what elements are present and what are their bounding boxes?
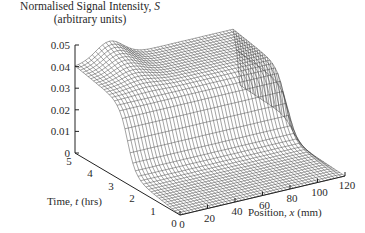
z-tick-label: 0.04: [51, 61, 71, 73]
t-tick-label: 5: [66, 155, 72, 167]
surface-plot: 00.010.020.030.040.050204060801001200123…: [0, 0, 365, 233]
y-axis-label: Time, t (hrs): [47, 195, 102, 208]
t-tick-label: 3: [108, 180, 114, 192]
t-tick-label: 0: [171, 217, 177, 229]
x-tick-label: 100: [311, 186, 328, 198]
z-tick-label: 0.03: [51, 82, 71, 94]
x-tick-label: 80: [287, 192, 299, 204]
x-tick-label: 0: [179, 218, 185, 230]
t-tick-label: 1: [150, 205, 156, 217]
z-tick-label: 0.01: [51, 125, 70, 137]
z-tick-label: 0.05: [51, 39, 71, 51]
x-tick-label: 120: [339, 179, 356, 191]
t-tick-label: 2: [129, 192, 135, 204]
surface-wireframe: [75, 29, 345, 215]
t-tick-label: 4: [87, 167, 93, 179]
x-tick-label: 20: [204, 212, 216, 224]
surface-mesh: [75, 29, 345, 215]
z-tick-label: 0.02: [51, 104, 70, 116]
x-tick-label: 40: [232, 205, 244, 217]
x-axis-label: Position, x (mm): [248, 206, 322, 219]
